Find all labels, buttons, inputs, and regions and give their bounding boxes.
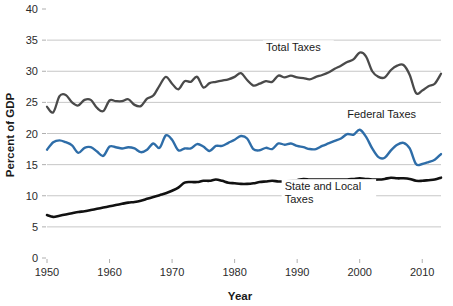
y-axis-ticks: 0510152025303540 <box>26 3 46 264</box>
y-tick-label: 30 <box>26 65 38 77</box>
series-label-state-and-local-taxes: State and Local <box>285 180 361 192</box>
y-tick-label: 35 <box>26 34 38 46</box>
y-axis-title: Percent of GDP <box>4 92 16 177</box>
y-tick-label: 15 <box>26 159 38 171</box>
y-tick-label: 40 <box>26 3 38 15</box>
series-line-state-and-local-taxes <box>47 178 441 217</box>
x-tick-label: 2010 <box>410 266 434 278</box>
x-axis-ticks: 1950196019701980199020002010 <box>35 259 435 278</box>
x-tick-label: 1970 <box>160 266 184 278</box>
series-label-federal-taxes: Federal Taxes <box>347 108 416 120</box>
y-tick-label: 20 <box>26 128 38 140</box>
series-label-state-and-local-taxes: Taxes <box>285 193 314 205</box>
x-tick-label: 1960 <box>97 266 121 278</box>
data-series-group <box>47 52 441 216</box>
chart-container: 0510152025303540 19501960197019801990200… <box>0 0 453 306</box>
y-tick-label: 10 <box>26 190 38 202</box>
tax-revenue-line-chart: 0510152025303540 19501960197019801990200… <box>0 0 453 306</box>
series-label-total-taxes: Total Taxes <box>266 41 321 53</box>
x-tick-label: 1950 <box>35 266 59 278</box>
series-line-total-taxes <box>47 52 441 112</box>
x-tick-label: 1990 <box>285 266 309 278</box>
y-tick-label: 25 <box>26 96 38 108</box>
x-axis-title: Year <box>228 290 253 302</box>
x-tick-label: 2000 <box>347 266 371 278</box>
gridlines-group <box>47 40 441 227</box>
y-tick-label: 0 <box>32 252 38 264</box>
x-tick-label: 1980 <box>222 266 246 278</box>
series-line-federal-taxes <box>47 130 441 165</box>
y-tick-label: 5 <box>32 221 38 233</box>
